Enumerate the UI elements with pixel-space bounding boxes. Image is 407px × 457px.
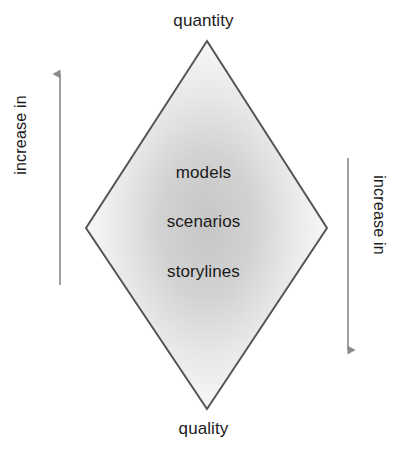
left-axis-label-increase-in: increase in: [12, 95, 30, 175]
inner-label-storylines: storylines: [0, 262, 407, 282]
inner-label-scenarios: scenarios: [0, 212, 407, 232]
bottom-apex-label-quality: quality: [0, 419, 407, 439]
top-apex-label-quantity: quantity: [0, 11, 407, 31]
inner-label-models: models: [0, 163, 407, 183]
figure-container: quantity models scenarios storylines qua…: [0, 0, 407, 457]
right-axis-label-increase-in: increase in: [370, 175, 388, 255]
